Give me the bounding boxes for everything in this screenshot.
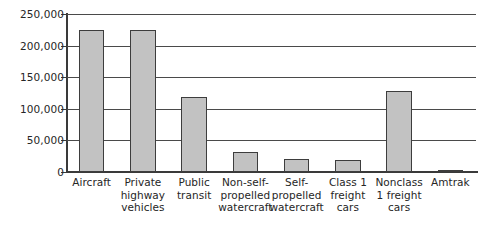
y-axis-tick-label: 50,000 bbox=[0, 135, 64, 145]
x-axis-label: Amtrak bbox=[421, 176, 480, 189]
bar[interactable] bbox=[181, 97, 207, 172]
x-axis-label-line: 1 freight bbox=[370, 189, 429, 202]
x-axis-label-line: Amtrak bbox=[421, 176, 480, 189]
bar[interactable] bbox=[386, 91, 412, 172]
bar-slot bbox=[322, 14, 373, 172]
bar-slot bbox=[374, 14, 425, 172]
bar[interactable] bbox=[130, 30, 156, 172]
plot-area: 050,000100,000150,000200,000250,000 bbox=[66, 14, 476, 172]
bar-slot bbox=[169, 14, 220, 172]
y-axis-tick-label: 0 bbox=[0, 167, 64, 177]
bar-slot bbox=[66, 14, 117, 172]
bar[interactable] bbox=[79, 30, 105, 172]
x-axis-label-line: vehicles bbox=[113, 201, 172, 214]
x-axis-label-line: cars bbox=[370, 201, 429, 214]
bar-chart: 050,000100,000150,000200,000250,000 Airc… bbox=[0, 0, 482, 227]
bar[interactable] bbox=[438, 170, 464, 173]
bar[interactable] bbox=[335, 160, 361, 172]
y-axis-tick-label: 250,000 bbox=[0, 9, 64, 19]
bar-slot bbox=[425, 14, 476, 172]
y-axis-tick-label: 200,000 bbox=[0, 41, 64, 51]
x-axis-labels: AircraftPrivatehighwayvehiclesPublictran… bbox=[66, 176, 478, 226]
bar-slot bbox=[117, 14, 168, 172]
bar-slot bbox=[271, 14, 322, 172]
y-axis-tick-label: 150,000 bbox=[0, 72, 64, 82]
bar-slot bbox=[220, 14, 271, 172]
y-axis-tick-label: 100,000 bbox=[0, 104, 64, 114]
bar[interactable] bbox=[284, 159, 310, 172]
bar[interactable] bbox=[233, 152, 259, 172]
bar-series bbox=[66, 14, 476, 172]
